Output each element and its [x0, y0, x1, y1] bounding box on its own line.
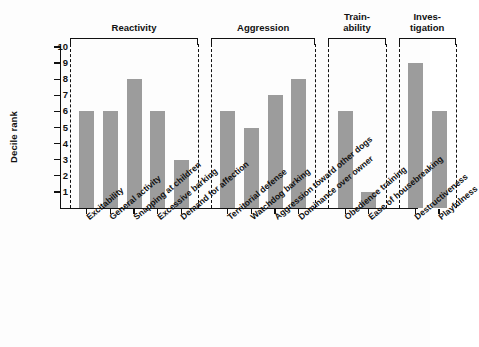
group-title-investigation: Inves- tigation: [379, 12, 476, 33]
group-bracket-aggression: [211, 38, 315, 45]
bar: [220, 111, 235, 208]
plot-area: [60, 47, 418, 208]
group-bracket-investigation: [399, 38, 456, 45]
bar: [79, 111, 94, 208]
group-bracket-train-ability: [328, 38, 385, 45]
group-bracket-reactivity: [70, 38, 198, 45]
y-axis-title: Decile rank: [8, 92, 19, 182]
